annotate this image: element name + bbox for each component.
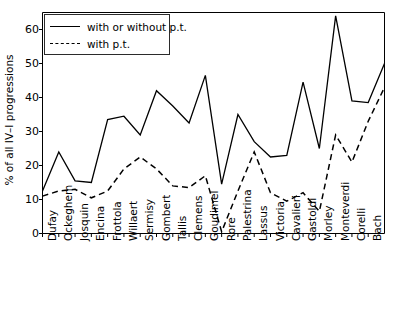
legend-line-solid-icon (50, 21, 80, 33)
legend-line-dashed-icon (50, 38, 80, 50)
legend-item-solid: with or without p.t. (50, 18, 164, 35)
axis-ticks (39, 30, 368, 238)
chart-legend: with or without p.t. with p.t. (44, 14, 170, 55)
chart-figure: 0102030405060 % of all IV–I progressions… (0, 0, 402, 314)
legend-label-dashed: with p.t. (87, 38, 130, 50)
legend-item-dashed: with p.t. (50, 35, 164, 52)
series-line-with-pt (43, 87, 385, 232)
legend-label-solid: with or without p.t. (87, 21, 187, 33)
